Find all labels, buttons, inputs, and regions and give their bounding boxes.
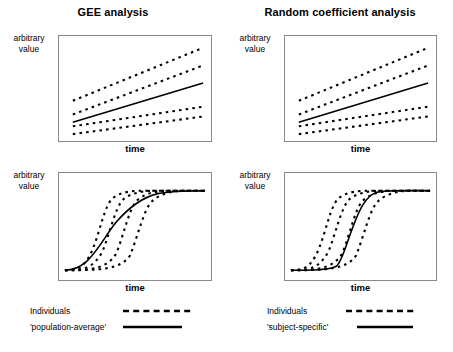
plot-gee-logistic — [58, 172, 212, 281]
y-axis-label-line2: value — [228, 44, 282, 55]
y-axis-label-line2: value — [2, 44, 56, 55]
legend-key-dashed-icon — [122, 306, 194, 316]
y-axis-label-line1: arbitrary — [228, 33, 282, 44]
y-axis-label-line2: value — [228, 181, 282, 192]
series-individual-1 — [291, 191, 430, 271]
series-individual-4 — [299, 116, 428, 134]
y-axis-label-top-right: arbitrary value — [228, 33, 282, 54]
series-individual-2 — [65, 191, 205, 271]
solid-line-icon — [345, 322, 417, 332]
y-axis-label-bottom-left: arbitrary value — [2, 170, 56, 191]
plot-random-linear-svg — [285, 36, 436, 141]
y-axis-label-line2: value — [2, 181, 56, 192]
legend-row-average: 'population-average' — [30, 319, 220, 335]
series-individual-2 — [73, 65, 203, 114]
legend-label-individuals: Individuals — [267, 306, 345, 316]
series-individual-1 — [299, 48, 428, 101]
plot-gee-logistic-svg — [59, 173, 211, 280]
y-axis-label-line1: arbitrary — [228, 170, 282, 181]
series-individual-1 — [65, 191, 205, 271]
dashed-line-icon — [122, 306, 194, 316]
y-axis-label-bottom-right: arbitrary value — [228, 170, 282, 191]
series-subject-specific — [291, 191, 430, 271]
series-individual-4 — [65, 191, 205, 271]
legend-row-average: 'subject-specific' — [267, 319, 453, 335]
panel-column-gee: GEE analysis arbitrary value time arbitr… — [0, 0, 226, 352]
y-axis-label-top-left: arbitrary value — [2, 33, 56, 54]
series-population-average — [73, 83, 203, 122]
x-axis-label-bottom-right: time — [284, 282, 437, 293]
legend-label-individuals: Individuals — [30, 306, 122, 316]
series-individual-2 — [299, 65, 428, 114]
y-axis-label-line1: arbitrary — [2, 170, 56, 181]
x-axis-label-top-left: time — [58, 143, 212, 154]
legend-key-dashed-icon — [345, 306, 417, 316]
legend-label-subject-specific: 'subject-specific' — [267, 322, 345, 332]
series-population-average — [65, 191, 205, 271]
y-axis-label-line1: arbitrary — [2, 33, 56, 44]
plot-gee-linear-svg — [59, 36, 211, 141]
plot-random-linear — [284, 35, 437, 142]
x-axis-label-top-right: time — [284, 143, 437, 154]
legend-label-population-average: 'population-average' — [30, 322, 122, 332]
legend-row-individuals: Individuals — [267, 303, 453, 319]
legend-key-solid-icon — [345, 322, 417, 332]
legend-row-individuals: Individuals — [30, 303, 220, 319]
legend-gee: Individuals 'population-average' — [30, 303, 220, 335]
plot-random-logistic-svg — [285, 173, 436, 280]
plot-random-logistic — [284, 172, 437, 281]
dashed-line-icon — [345, 306, 417, 316]
series-individual-3 — [291, 191, 430, 271]
series-individual-4 — [291, 191, 430, 271]
solid-line-icon — [122, 322, 194, 332]
series-individual-3 — [65, 191, 205, 271]
x-axis-label-bottom-left: time — [58, 282, 212, 293]
series-individual-2 — [291, 191, 430, 271]
figure-canvas: GEE analysis arbitrary value time arbitr… — [0, 0, 453, 352]
panel-title-random-coefficient: Random coefficient analysis — [227, 6, 453, 19]
legend-random-coefficient: Individuals 'subject-specific' — [267, 303, 453, 335]
series-individual-4 — [73, 116, 203, 134]
panel-title-gee: GEE analysis — [0, 6, 226, 19]
panel-column-random-coefficient: Random coefficient analysis arbitrary va… — [227, 0, 453, 352]
plot-gee-linear — [58, 35, 212, 142]
series-individual-1 — [73, 48, 203, 101]
legend-key-solid-icon — [122, 322, 194, 332]
